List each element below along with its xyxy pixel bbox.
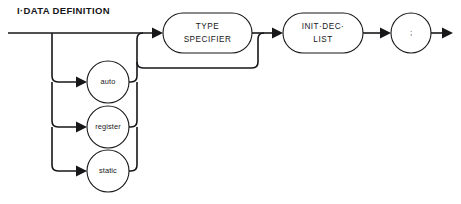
rail-register-exit	[129, 82, 137, 127]
railroad-diagram-canvas: I·DATA DEFINITION	[0, 0, 461, 204]
node-auto-label: auto	[101, 77, 116, 86]
arrow-into-semicolon	[380, 28, 391, 39]
arrow-into-type-specifier	[152, 28, 163, 39]
arrow-into-register	[76, 122, 87, 133]
node-semicolon[interactable]: ;	[391, 13, 431, 53]
node-init-dec-list-shape	[283, 13, 363, 53]
node-semicolon-label: ;	[410, 28, 412, 37]
node-init-dec-list[interactable]: INIT·DEC· LIST	[283, 13, 363, 53]
node-auto[interactable]: auto	[87, 61, 129, 103]
rail-lines	[8, 33, 445, 171]
node-type-specifier-shape	[163, 13, 252, 53]
railroad-diagram-graphic: TYPE SPECIFIER INIT·DEC· LIST ; auto reg…	[0, 0, 461, 204]
node-type-specifier-label-line2: SPECIFIER	[184, 35, 232, 44]
node-register-label: register	[95, 122, 121, 131]
node-type-specifier-label-line1: TYPE	[196, 22, 219, 31]
arrow-into-static	[76, 166, 87, 177]
node-register[interactable]: register	[87, 106, 129, 148]
rail-static-exit	[129, 127, 137, 171]
node-init-dec-list-label-line2: LIST	[313, 35, 332, 44]
node-static-label: static	[99, 166, 117, 175]
rail-auto-exit	[129, 33, 143, 82]
node-static[interactable]: static	[87, 150, 129, 192]
node-init-dec-list-label-line1: INIT·DEC·	[302, 22, 345, 31]
arrow-into-auto	[76, 77, 87, 88]
arrow-diagram-exit	[442, 28, 453, 39]
node-type-specifier[interactable]: TYPE SPECIFIER	[163, 13, 252, 53]
rail-left-branch-vertical	[52, 33, 80, 171]
arrow-heads	[76, 28, 453, 177]
arrow-into-init-dec-list	[272, 28, 283, 39]
